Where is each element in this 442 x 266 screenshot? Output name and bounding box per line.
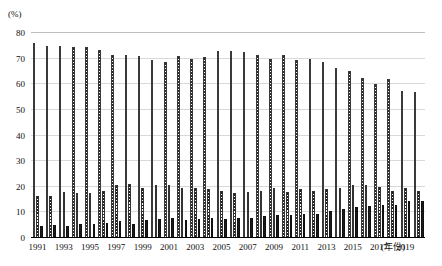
bar-group (215, 33, 228, 238)
bar-series-3 (368, 206, 371, 238)
bar-series-1 (177, 56, 180, 238)
bar-series-2 (391, 191, 394, 238)
bar-series-1 (33, 43, 36, 238)
bar-group (399, 33, 412, 238)
x-axis-tick: 2005 (212, 243, 230, 252)
bar-series-1 (230, 51, 233, 238)
x-axis-line (31, 237, 425, 238)
x-axis-tick: 1995 (81, 243, 99, 252)
bar-series-3 (382, 205, 385, 238)
bar-series-2 (325, 189, 328, 238)
bar-series-2 (233, 193, 236, 238)
bar-series-3 (132, 224, 135, 238)
bar-series-3 (263, 216, 266, 238)
bar-series-1 (387, 79, 390, 238)
bar-group (162, 33, 175, 238)
x-axis-tick: 1997 (107, 243, 125, 252)
y-axis-tick: 60 (0, 80, 25, 89)
x-axis-tick: 2011 (291, 243, 309, 252)
bar-series-3 (237, 218, 240, 239)
plot-area (31, 33, 425, 238)
bar-series-3 (171, 218, 174, 239)
bar-series-3 (93, 224, 96, 238)
bar-series-2 (181, 188, 184, 238)
bar-group (412, 33, 425, 238)
bar-series-1 (98, 50, 101, 238)
bar-group (149, 33, 162, 238)
bar-series-1 (361, 78, 364, 238)
bar-group (57, 33, 70, 238)
bar-series-2 (260, 191, 263, 238)
y-axis-tick: 20 (0, 182, 25, 191)
bar-series-1 (46, 46, 49, 238)
bar-series-1 (125, 55, 128, 238)
bar-group (110, 33, 123, 238)
bar-series-2 (220, 191, 223, 238)
bar-series-2 (36, 196, 39, 238)
bar-series-3 (316, 214, 319, 238)
bar-series-3 (329, 211, 332, 238)
bar-series-2 (365, 185, 368, 238)
x-axis-tick: 2013 (318, 243, 336, 252)
bar-group (97, 33, 110, 238)
bar-series-1 (151, 60, 154, 238)
bar-series-1 (269, 59, 272, 238)
bar-series-3 (290, 215, 293, 238)
bar-series-1 (282, 55, 285, 238)
bar-group (189, 33, 202, 238)
bar-series-1 (138, 56, 141, 238)
bar-series-1 (72, 47, 75, 238)
bar-series-1 (374, 84, 377, 238)
bar-series-3 (119, 221, 122, 238)
y-axis-tick: 70 (0, 54, 25, 63)
bar-series-1 (256, 55, 259, 238)
bar-group (386, 33, 399, 238)
bar-series-2 (194, 188, 197, 238)
bar-series-1 (309, 59, 312, 238)
bar-series-2 (417, 191, 420, 238)
x-axis-tick: 2007 (239, 243, 257, 252)
bar-series-3 (395, 205, 398, 238)
bar-series-2 (378, 187, 381, 238)
bar-series-3 (224, 219, 227, 238)
x-axis-tick: 2015 (344, 243, 362, 252)
x-axis-tick: 1999 (134, 243, 152, 252)
bar-series-2 (339, 188, 342, 238)
y-axis-tick: 50 (0, 105, 25, 114)
bar-series-3 (355, 207, 358, 238)
bar-group (373, 33, 386, 238)
bar-series-2 (273, 188, 276, 238)
bar-series-3 (342, 209, 345, 238)
bar-groups (31, 33, 425, 238)
bar-group (84, 33, 97, 238)
chart-container: (%) 01020304050607080 199119931995199719… (0, 0, 442, 266)
bar-series-3 (185, 220, 188, 238)
y-axis-tick: 40 (0, 131, 25, 140)
bar-series-3 (421, 201, 424, 238)
y-axis-tick: 0 (0, 234, 25, 243)
bar-series-2 (312, 191, 315, 238)
bar-group (254, 33, 267, 238)
bar-series-2 (115, 185, 118, 238)
bar-series-3 (158, 219, 161, 238)
bar-series-1 (322, 62, 325, 238)
x-axis-unit-label: (年份) (381, 243, 405, 252)
bar-series-2 (49, 196, 52, 238)
bar-series-2 (207, 189, 210, 238)
bar-series-2 (89, 193, 92, 238)
bar-group (176, 33, 189, 238)
bar-series-1 (59, 46, 62, 238)
bar-group (241, 33, 254, 238)
y-axis-tick: 80 (0, 29, 25, 38)
bar-group (346, 33, 359, 238)
bar-series-2 (141, 188, 144, 238)
bar-series-1 (414, 92, 417, 238)
bar-series-1 (203, 57, 206, 238)
y-axis-tick: 30 (0, 157, 25, 166)
bar-group (228, 33, 241, 238)
bar-series-1 (111, 55, 114, 238)
bar-group (294, 33, 307, 238)
bar-series-1 (348, 71, 351, 238)
bar-group (31, 33, 44, 238)
y-axis-tick: 10 (0, 208, 25, 217)
